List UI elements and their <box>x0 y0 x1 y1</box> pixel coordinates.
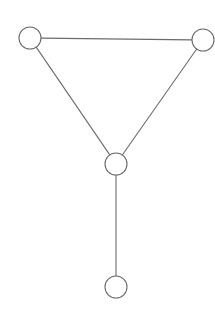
graph-diagram <box>0 0 215 311</box>
graph-node[interactable] <box>105 276 127 298</box>
graph-node[interactable] <box>192 29 214 51</box>
graph-node[interactable] <box>19 27 41 49</box>
graph-node[interactable] <box>105 153 127 175</box>
